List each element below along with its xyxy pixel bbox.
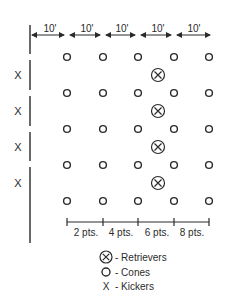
points-label: 4 pts. — [109, 227, 133, 238]
cone-icon — [171, 90, 178, 97]
retrievers — [152, 69, 165, 190]
retriever-icon — [152, 141, 165, 154]
cone-icon — [206, 54, 213, 61]
cone-icon — [135, 126, 142, 133]
cone-icon — [135, 90, 142, 97]
legend-cones: - Cones — [115, 267, 150, 278]
points-label: 8 pts. — [180, 227, 204, 238]
kicker-icon: X — [14, 69, 22, 81]
points-labels: 2 pts. 4 pts. 6 pts. 8 pts. — [74, 227, 204, 238]
cone-icon — [100, 54, 107, 61]
cone-icon — [64, 162, 71, 169]
legend-kickers: - Kickers — [115, 281, 154, 292]
cone-icon — [100, 162, 107, 169]
cone-icon — [171, 126, 178, 133]
legend: - Retrievers - Cones X - Kickers — [100, 251, 167, 292]
cone-icon — [64, 198, 71, 205]
legend-retrievers: - Retrievers — [115, 252, 167, 263]
kicker-icon: X — [103, 281, 110, 292]
kickers: X X X X — [14, 69, 22, 189]
cone-icon — [100, 126, 107, 133]
cone-icon — [206, 126, 213, 133]
cone-icon — [135, 198, 142, 205]
kicker-icon: X — [14, 177, 22, 189]
cone-icon — [171, 198, 178, 205]
cone-icon — [171, 54, 178, 61]
kicker-icon: X — [14, 105, 22, 117]
points-scale — [67, 218, 209, 226]
drill-diagram: 10' 10' 10' 10' 10' X X X X 2 pts. 4 pt — [0, 0, 227, 299]
cone-icon — [206, 90, 213, 97]
dimension-label: 10' — [187, 23, 200, 34]
cone-icon — [64, 90, 71, 97]
kicker-icon: X — [14, 141, 22, 153]
dimension-label: 10' — [115, 23, 128, 34]
cone-icon — [171, 162, 178, 169]
cones — [64, 54, 213, 205]
dimension-label: 10' — [151, 23, 164, 34]
cone-icon — [206, 162, 213, 169]
cone-icon — [64, 54, 71, 61]
points-label: 6 pts. — [145, 227, 169, 238]
retriever-icon — [100, 251, 112, 263]
dimension-labels: 10' 10' 10' 10' 10' — [43, 23, 200, 34]
points-label: 2 pts. — [74, 227, 98, 238]
cone-icon — [100, 90, 107, 97]
dimension-label: 10' — [80, 23, 93, 34]
cone-icon — [100, 198, 107, 205]
cone-icon — [64, 126, 71, 133]
dimension-label: 10' — [43, 23, 56, 34]
cone-icon — [206, 198, 213, 205]
retriever-icon — [152, 177, 165, 190]
cone-icon — [102, 268, 110, 276]
retriever-icon — [152, 69, 165, 82]
cone-icon — [135, 54, 142, 61]
cone-icon — [135, 162, 142, 169]
retriever-icon — [152, 105, 165, 118]
